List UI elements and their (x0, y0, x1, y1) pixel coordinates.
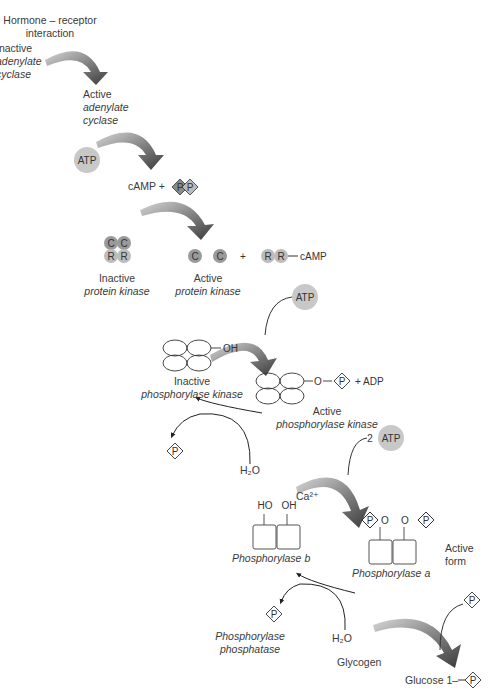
svg-text:C: C (107, 238, 114, 249)
atp-circle-2: ATP (292, 284, 318, 310)
plus-adp: + ADP (355, 376, 384, 387)
svg-text:R: R (107, 251, 114, 262)
svg-text:ATP: ATP (78, 155, 97, 166)
svg-text:P: P (367, 515, 374, 526)
inactive-adenylate-cyclase-label: Inactive adenylate cyclase (0, 42, 42, 81)
active-protein-kinase-icon: C C (188, 249, 227, 263)
active-adenylate-cyclase-label: Active adenylate cyclase (83, 88, 129, 127)
svg-text:R: R (264, 251, 271, 262)
inactive-protein-kinase-label: Inactive protein kinase (77, 272, 157, 298)
pi-release-arrow-2 (281, 584, 345, 630)
svg-text:P: P (423, 515, 430, 526)
camp-label: cAMP + (128, 180, 165, 193)
oh-group: OH (223, 343, 238, 354)
cascade-diagram: ATP ATP ATP P P C C R R C C + R R cAMP (0, 0, 500, 697)
pyrophosphate-icon: P P (172, 179, 198, 195)
water-label-1: H₂O (240, 464, 260, 477)
inactive-protein-kinase-icon: C C R R (104, 236, 131, 263)
phosphate-icon-1: P (167, 443, 183, 459)
glycogen-label: Glycogen (337, 656, 381, 669)
two-label: 2 (367, 432, 373, 445)
svg-text:C: C (120, 238, 127, 249)
curved-arrow-2 (96, 133, 164, 170)
svg-text:O: O (401, 515, 409, 526)
active-phosphorylase-kinase-icon (256, 373, 350, 404)
phosphorylase-phosphatase-label: Phosphorylase phosphatase (210, 630, 290, 656)
glucose-phosphate-icon: P (458, 672, 481, 688)
svg-text:P: P (187, 182, 194, 193)
svg-text:ATP: ATP (382, 433, 401, 444)
active-protein-kinase-label: Active protein kinase (168, 272, 248, 298)
phosphate-icon-3: P (464, 592, 480, 608)
svg-text:R: R (120, 251, 127, 262)
water-label-2: H₂O (332, 632, 352, 645)
curved-arrow-1 (45, 51, 108, 85)
svg-text:P: P (339, 376, 346, 387)
hormone-receptor-label: Hormone – receptorinteraction (0, 14, 100, 40)
phosphate-icon-2: P (266, 606, 282, 622)
plus-sign: + (240, 251, 246, 262)
svg-text:P: P (177, 182, 184, 193)
phosphorylase-b-icon (253, 514, 300, 549)
curved-arrow-6 (373, 619, 461, 668)
glucose-1-label: Glucose 1– (405, 674, 458, 687)
active-phosphorylase-kinase-label: Active phosphorylase kinase (262, 405, 392, 431)
svg-text:P: P (271, 609, 278, 620)
svg-text:ATP: ATP (296, 292, 315, 303)
active-form-label: Active form (445, 542, 474, 568)
atp-circle-1: ATP (74, 147, 100, 173)
svg-text:R: R (277, 251, 284, 262)
svg-text:cAMP: cAMP (300, 251, 327, 262)
curved-arrow-3 (140, 202, 214, 240)
inactive-phosphorylase-kinase-label: Inactive phosphorylase kinase (132, 375, 252, 401)
svg-text:O: O (314, 376, 322, 387)
svg-text:O: O (381, 515, 389, 526)
atp-connector-2 (265, 297, 292, 335)
phosphorylase-a-label: Phosphorylase a (352, 567, 430, 580)
atp-connector-3 (348, 438, 367, 475)
pi-release-arrow-1 (172, 414, 250, 464)
regulatory-camp-icon: R R cAMP (261, 249, 327, 263)
svg-text:P: P (469, 595, 476, 606)
svg-text:C: C (191, 251, 198, 262)
svg-text:C: C (216, 251, 223, 262)
svg-text:P: P (470, 675, 477, 686)
phosphorylase-b-label: Phosphorylase b (232, 552, 310, 565)
calcium-label: Ca²⁺ (296, 490, 319, 503)
svg-text:P: P (172, 446, 179, 457)
svg-text:HO: HO (258, 500, 273, 511)
svg-text:OH: OH (282, 500, 297, 511)
